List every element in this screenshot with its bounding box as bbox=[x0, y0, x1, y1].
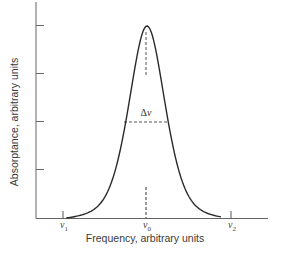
fwhm-label: Δν bbox=[141, 107, 152, 118]
x-tick-label-nu2: ν2 bbox=[228, 219, 236, 233]
y-ticks bbox=[36, 26, 44, 170]
x-axis-label: Frequency, arbitrary units bbox=[86, 232, 204, 244]
x-tick-label-nu1: ν1 bbox=[60, 219, 68, 233]
subscript: 0 bbox=[147, 225, 151, 233]
absorption-line-chart bbox=[0, 0, 286, 254]
subscript: 2 bbox=[232, 225, 236, 233]
y-axis-label: Absorptance, arbitrary units bbox=[8, 58, 20, 186]
x-tick-label-nu0: ν0 bbox=[143, 219, 151, 233]
subscript: 1 bbox=[64, 225, 68, 233]
absorption-curve bbox=[66, 26, 221, 218]
nu-symbol: ν bbox=[147, 107, 151, 118]
